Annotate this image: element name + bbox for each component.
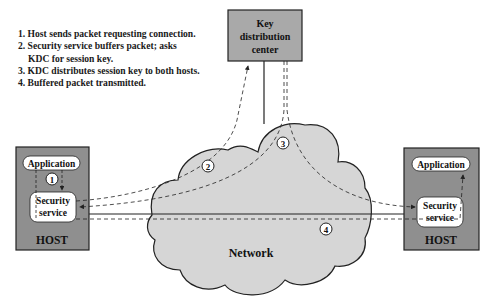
left-security-label-line1: Security xyxy=(36,196,70,206)
kdc-label-line2: distribution xyxy=(240,31,291,42)
kdc-label-line1: Key xyxy=(256,18,273,29)
left-application-label: Application xyxy=(28,159,76,169)
step-marker-1: 1 xyxy=(46,173,58,185)
left-host-label: HOST xyxy=(36,234,68,246)
right-host-label: HOST xyxy=(425,234,457,246)
step-marker-3: 3 xyxy=(277,137,289,149)
kdc-diagram: Key distribution center Application Secu… xyxy=(0,0,490,302)
svg-text:4: 4 xyxy=(324,225,329,235)
network-label: Network xyxy=(229,246,274,260)
svg-text:2: 2 xyxy=(206,162,211,172)
right-security-label-line1: Security xyxy=(423,201,457,211)
step-marker-2: 2 xyxy=(202,160,214,172)
step-marker-4: 4 xyxy=(320,223,332,235)
svg-text:3: 3 xyxy=(281,139,286,149)
left-security-label-line2: service xyxy=(39,208,67,218)
kdc-label-line3: center xyxy=(252,44,279,55)
right-security-label-line2: service xyxy=(426,213,454,223)
right-application-label: Application xyxy=(417,160,465,170)
svg-text:1: 1 xyxy=(50,175,55,185)
network-cloud xyxy=(147,124,371,295)
